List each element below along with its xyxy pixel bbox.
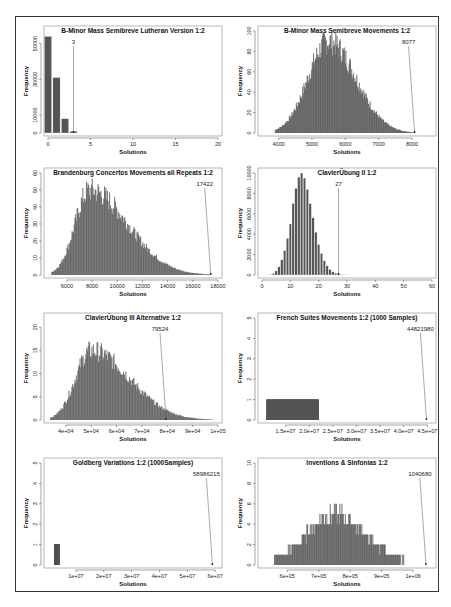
y-tick-label: 0: [32, 563, 38, 566]
histogram-panel-1: B-Minor Mass Semibreve Lutheran Version …: [18, 18, 230, 162]
x-tick-label: 4e+07: [152, 573, 167, 579]
x-tick-label: 3.5e+07: [370, 428, 390, 434]
y-axis-label: Frequency: [237, 352, 243, 383]
annotation-arrow: [409, 46, 415, 132]
x-tick-label: 2.0e+07: [299, 428, 319, 434]
histogram-panel-4: ClavierÜbung II 1:2020004000600080001000…: [232, 160, 444, 304]
x-tick-label: 8000: [86, 283, 98, 289]
y-tick-label: 3: [246, 357, 252, 360]
y-tick-label: 10: [32, 371, 38, 377]
plot-area: [44, 26, 222, 136]
annotation-label: 58986215: [193, 471, 220, 477]
annotation-label: 27: [335, 181, 342, 187]
y-tick-label: 4: [32, 482, 38, 485]
annotation-arrow: [420, 478, 426, 564]
histogram-bars: [267, 400, 319, 420]
x-tick-label: 3e+07: [124, 573, 139, 579]
x-tick-label: 1e+07: [68, 573, 83, 579]
y-tick-label: 0: [246, 273, 252, 276]
y-tick-label: 2: [246, 543, 252, 546]
x-tick-label: 4.0e+07: [394, 428, 414, 434]
y-axis-label: Frequency: [237, 497, 243, 528]
y-axis-label: Frequency: [23, 497, 29, 528]
x-tick-label: 30: [344, 283, 350, 289]
x-tick-label: 14000: [160, 283, 175, 289]
y-axis-label: Frequency: [237, 65, 243, 96]
annotation-label: 3: [72, 39, 76, 45]
x-axis-label: Solutions: [333, 581, 361, 587]
y-tick-label: 3: [32, 502, 38, 505]
y-tick-label: 1: [246, 398, 252, 401]
annotation-arrow: [160, 333, 166, 419]
annotation-label: 17422: [196, 181, 213, 187]
x-tick-label: 7e+04: [134, 428, 149, 434]
x-tick-label: 16000: [185, 283, 200, 289]
x-tick-label: 5e+07: [180, 573, 195, 579]
x-tick-label: 15: [172, 141, 178, 147]
annotation-arrow: [420, 333, 426, 419]
chart-title: Inventions & Sinfonias 1:2: [306, 459, 388, 466]
histogram-bars: [52, 178, 210, 275]
x-axis-label: Solutions: [119, 291, 147, 297]
y-tick-label: 30: [32, 221, 38, 227]
y-tick-label: 100: [246, 26, 252, 35]
y-tick-label: 0: [246, 563, 252, 566]
x-tick-label: 4e+04: [58, 428, 73, 434]
histogram-bars: [275, 29, 414, 133]
x-tick-label: 9e+05: [374, 573, 389, 579]
y-axis-label: Frequency: [23, 352, 29, 383]
y-tick-label: 0: [246, 418, 252, 421]
annotation-arrow: [205, 188, 211, 274]
x-tick-label: 20: [215, 141, 221, 147]
histogram-bars: [269, 173, 348, 275]
x-tick-label: 8e+04: [160, 428, 175, 434]
y-tick-label: 20: [32, 324, 38, 330]
x-tick-label: 1e+05: [210, 428, 225, 434]
x-tick-label: 6000: [339, 141, 351, 147]
annotation-arrow: [206, 478, 212, 564]
x-axis-label: Solutions: [333, 436, 361, 442]
x-tick-label: 7000: [373, 141, 385, 147]
y-tick-label: 2000: [246, 248, 252, 260]
x-tick-label: 6000: [61, 283, 73, 289]
y-tick-label: 6: [246, 502, 252, 505]
y-tick-label: 5: [246, 316, 252, 319]
histogram-panel-3: Brandenburg Concertos Movements all Repe…: [18, 160, 230, 304]
x-axis-label: Solutions: [333, 149, 361, 155]
x-tick-label: 8000: [406, 141, 418, 147]
y-tick-label: 2: [32, 523, 38, 526]
x-tick-label: 9e+04: [185, 428, 200, 434]
x-tick-label: 7e+05: [311, 573, 326, 579]
y-tick-label: 50000: [32, 36, 38, 51]
histogram-bars: [55, 545, 59, 565]
y-tick-label: 80: [246, 48, 252, 54]
y-tick-label: 0: [246, 131, 252, 134]
x-tick-label: 4.5e+07: [417, 428, 437, 434]
chart-title: B-Minor Mass Semibreve Movements 1:2: [284, 27, 410, 34]
x-tick-label: 6e+07: [207, 573, 222, 579]
y-tick-label: 1: [32, 543, 38, 546]
y-tick-label: 10000: [246, 165, 252, 180]
y-axis-label: Frequency: [23, 65, 29, 96]
y-tick-label: 0: [32, 273, 38, 276]
y-tick-label: 0: [32, 418, 38, 421]
x-tick-label: 50: [401, 283, 407, 289]
y-tick-label: 40: [32, 204, 38, 210]
histogram-bars: [51, 341, 213, 420]
y-tick-label: 20: [32, 238, 38, 244]
x-tick-label: 1e+06: [405, 573, 420, 579]
histogram-bars: [44, 36, 77, 133]
x-axis-label: Solutions: [119, 581, 147, 587]
x-tick-label: 1.5e+07: [276, 428, 296, 434]
y-tick-label: 0: [32, 131, 38, 134]
y-axis-label: Frequency: [237, 207, 243, 238]
x-axis-label: Solutions: [119, 436, 147, 442]
x-tick-label: 8e+05: [342, 573, 357, 579]
histogram-panel-7: Goldberg Variations 1:2 (1000Samples)012…: [18, 450, 230, 594]
x-tick-label: 12000: [135, 283, 150, 289]
annotation-label: 8077: [402, 39, 416, 45]
y-tick-label: 60: [32, 170, 38, 176]
annotation-label: 1040680: [408, 471, 432, 477]
x-tick-label: 5e+04: [83, 428, 98, 434]
x-axis-label: Solutions: [333, 291, 361, 297]
